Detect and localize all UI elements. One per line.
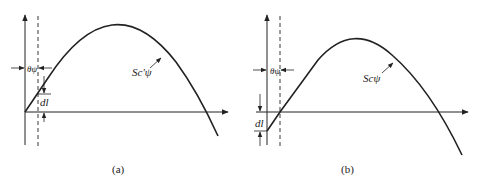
dl-label-b: dl	[255, 117, 264, 129]
theta-label-b: θψ	[270, 66, 280, 76]
panel-b: θψ dl Scψ (b)	[253, 15, 468, 176]
curve-label-arrow-b	[382, 63, 393, 73]
panel-a: θψ dl Sc'ψ (a)	[11, 15, 228, 176]
curve-label-b: Scψ	[363, 72, 380, 84]
diagram-canvas: θψ dl Sc'ψ (a) θψ dl Scψ (b)	[0, 0, 479, 186]
theta-label-a: θψ	[27, 64, 37, 74]
curve-label-a: Sc'ψ	[132, 66, 152, 78]
curve-label-arrow-a	[150, 58, 161, 68]
curve-a	[25, 25, 218, 136]
dl-label-a: dl	[40, 96, 49, 108]
curve-b	[267, 39, 462, 155]
caption-a: (a)	[112, 163, 125, 176]
caption-b: (b)	[341, 163, 354, 176]
